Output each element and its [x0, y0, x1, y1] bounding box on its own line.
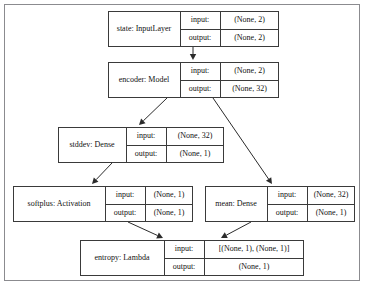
node-output-label: output: — [189, 84, 212, 93]
node-output-label: output: — [135, 149, 158, 158]
node-input-value: [(None, 1), (None, 1)] — [219, 244, 290, 253]
node-entropy[interactable]: entropy: Lambdainput:output:[(None, 1), … — [81, 241, 304, 276]
arrow-head-icon — [190, 54, 196, 60]
edge-line — [128, 222, 158, 236]
node-input-value: (None, 1) — [154, 190, 185, 199]
edge-encoder-to-stddev — [139, 98, 167, 125]
edge-line — [143, 98, 167, 121]
node-output-label: output: — [189, 33, 212, 42]
diagram-canvas: state: InputLayerinput:output:(None, 2)(… — [0, 0, 368, 288]
node-input-label: input: — [137, 131, 156, 140]
node-stddev[interactable]: stddev: Denseinput:output:(None, 32)(Non… — [59, 128, 224, 163]
node-input-value: (None, 32) — [314, 190, 349, 199]
node-output-value: (None, 1) — [154, 208, 185, 217]
node-encoder[interactable]: encoder: Modelinput:output:(None, 2)(Non… — [109, 63, 279, 98]
node-input-value: (None, 32) — [178, 131, 213, 140]
node-name-label: state: InputLayer — [117, 24, 172, 33]
edge-stddev-to-softplus — [92, 163, 112, 184]
nodes-layer: state: InputLayerinput:output:(None, 2)(… — [14, 12, 355, 276]
node-name-label: stddev: Dense — [69, 140, 115, 149]
edge-softplus-to-entropy — [128, 222, 163, 238]
edge-state-to-encoder — [190, 47, 196, 60]
node-output-label: output: — [173, 262, 196, 271]
node-output-value: (None, 2) — [234, 33, 265, 42]
node-output-value: (None, 1) — [180, 149, 211, 158]
node-output-label: output: — [114, 208, 137, 217]
node-name-label: encoder: Model — [119, 75, 170, 84]
node-input-value: (None, 2) — [234, 15, 265, 24]
node-output-value: (None, 32) — [232, 84, 267, 93]
node-input-label: input: — [191, 66, 210, 75]
node-input-label: input: — [116, 190, 135, 199]
node-output-value: (None, 1) — [239, 262, 270, 271]
node-mean[interactable]: mean: Denseinput:output:(None, 32)(None,… — [206, 187, 355, 222]
edge-line — [226, 222, 251, 235]
node-input-label: input: — [278, 190, 297, 199]
edge-mean-to-entropy — [221, 222, 251, 238]
node-softplus[interactable]: softplus: Activationinput:output:(None, … — [14, 187, 193, 222]
node-input-value: (None, 2) — [234, 66, 265, 75]
node-output-value: (None, 1) — [316, 208, 347, 217]
edge-line — [96, 163, 112, 180]
node-name-label: mean: Dense — [215, 199, 257, 208]
model-architecture-diagram: state: InputLayerinput:output:(None, 2)(… — [0, 0, 368, 288]
arrow-head-icon — [266, 177, 272, 184]
node-state[interactable]: state: InputLayerinput:output:(None, 2)(… — [109, 12, 279, 47]
node-input-label: input: — [191, 15, 210, 24]
node-input-label: input: — [175, 244, 194, 253]
node-output-label: output: — [276, 208, 299, 217]
node-name-label: entropy: Lambda — [95, 253, 150, 262]
node-name-label: softplus: Activation — [28, 199, 91, 208]
